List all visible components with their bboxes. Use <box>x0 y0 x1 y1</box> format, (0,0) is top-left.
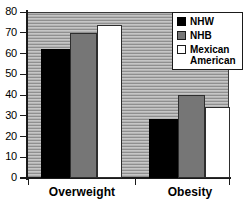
y-axis-tick-label: 0 <box>0 172 17 183</box>
bar-obesity-nhb <box>178 95 205 178</box>
y-axis-tick <box>20 32 27 33</box>
legend: NHW NHB Mexican American <box>172 12 243 70</box>
y-axis-tick <box>20 74 27 75</box>
bar-obesity-mexican-american <box>205 107 230 178</box>
y-axis-tick <box>20 53 27 54</box>
bar-overweight-mexican-american <box>97 25 122 178</box>
legend-label-nhb: NHB <box>190 30 212 41</box>
black-swatch-icon <box>177 17 186 26</box>
y-axis-tick <box>20 115 27 116</box>
legend-item-mexican-american: Mexican American <box>177 44 242 66</box>
x-axis-tick <box>229 179 230 185</box>
y-axis-tick-label: 80 <box>0 6 17 17</box>
white-swatch-icon <box>177 45 186 54</box>
legend-label-nhw: NHW <box>190 16 214 27</box>
y-axis-tick-label: 10 <box>0 151 17 162</box>
x-axis-tick <box>135 179 136 185</box>
y-axis-tick <box>20 157 27 158</box>
y-axis-tick-label: 70 <box>0 27 17 38</box>
y-axis-tick-label: 30 <box>0 110 17 121</box>
legend-item-nhb: NHB <box>177 30 242 41</box>
y-axis-tick-label: 50 <box>0 68 17 79</box>
x-axis-label-overweight: Overweight <box>49 185 115 199</box>
bar-obesity-nhw <box>149 119 178 178</box>
y-axis-tick-label: 60 <box>0 48 17 59</box>
y-axis-tick <box>20 12 27 13</box>
legend-label-mexican-american: Mexican American <box>190 44 236 66</box>
y-axis-tick-label: 40 <box>0 89 17 100</box>
legend-item-nhw: NHW <box>177 16 242 27</box>
x-axis-tick <box>28 179 29 185</box>
y-axis-tick-label: 20 <box>0 131 17 142</box>
bar-overweight-nhw <box>41 49 70 178</box>
y-axis-tick <box>20 136 27 137</box>
gray-swatch-icon <box>177 31 186 40</box>
y-axis-tick <box>20 178 27 179</box>
bar-chart: 80706050403020100 Overweight Obesity NHW… <box>0 0 246 206</box>
x-axis-label-obesity: Obesity <box>168 185 213 199</box>
y-axis-tick <box>20 95 27 96</box>
bar-overweight-nhb <box>70 33 97 178</box>
